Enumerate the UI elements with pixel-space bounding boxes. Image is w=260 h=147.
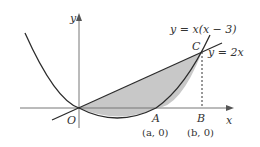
point-a-coords: (a, 0) [142,127,169,138]
line-equation-label: y = 2x [207,46,244,59]
y-axis-arrow-icon [76,13,82,21]
parabola-equation-label: y = x(x − 3) [169,23,237,36]
x-axis-label: x [226,114,233,127]
point-c-label: C [192,40,201,53]
point-b-label: B [196,112,205,125]
point-a-label: A [151,112,160,125]
origin-label: O [67,114,76,127]
graph-canvas: y x O y = x(x − 3) y = 2x C A B (a, 0) (… [0,0,260,147]
y-axis-label: y [69,12,77,25]
point-b-coords: (b, 0) [187,127,214,138]
shaded-region [79,52,202,117]
x-axis-arrow-icon [226,105,234,111]
